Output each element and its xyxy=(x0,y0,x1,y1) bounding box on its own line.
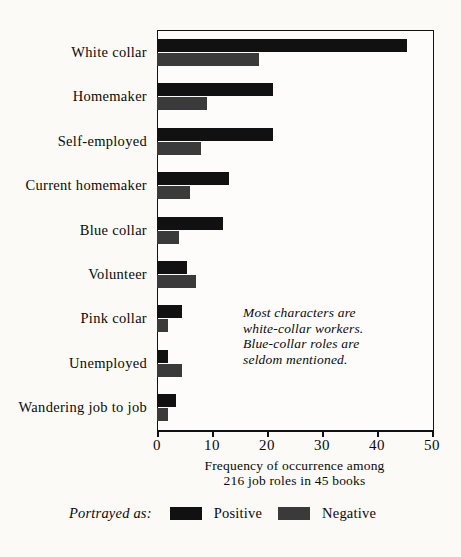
bar-negative xyxy=(157,319,168,332)
bar-group xyxy=(157,394,432,421)
bar-negative xyxy=(157,186,190,199)
bar-positive xyxy=(157,39,407,52)
x-tick-label: 0 xyxy=(153,437,161,454)
annotation-line: white-collar workers. xyxy=(243,321,403,337)
legend-items: PositiveNegative xyxy=(170,505,392,522)
x-axis-title-line-1: Frequency of occurrence among xyxy=(204,458,384,473)
bar-group xyxy=(157,261,432,288)
category-label: Unemployed xyxy=(69,355,147,371)
x-axis-title: Frequency of occurrence among 216 job ro… xyxy=(157,458,432,488)
bar-negative xyxy=(157,275,196,288)
x-tick-label: 40 xyxy=(369,437,385,454)
x-axis-title-line-2: 216 job roles in 45 books xyxy=(157,473,432,488)
bar-group xyxy=(157,172,432,199)
bar-positive xyxy=(157,261,187,274)
x-tick-label: 10 xyxy=(204,437,220,454)
x-tick xyxy=(157,430,159,437)
x-tick xyxy=(212,430,214,437)
x-axis-line xyxy=(157,430,432,431)
annotation-line: Most characters are xyxy=(243,305,403,321)
legend-label: Negative xyxy=(322,505,376,522)
annotation-line: seldom mentioned. xyxy=(243,352,403,368)
bar-positive xyxy=(157,305,182,318)
category-label: Current homemaker xyxy=(26,177,147,193)
x-tick-label: 20 xyxy=(259,437,275,454)
x-tick-label: 30 xyxy=(314,437,330,454)
bar-negative xyxy=(157,231,179,244)
chart-annotation: Most characters arewhite-collar workers.… xyxy=(243,305,403,367)
bar-group xyxy=(157,39,432,66)
legend-title: Portrayed as: xyxy=(69,505,152,522)
bar-group xyxy=(157,128,432,155)
bar-positive xyxy=(157,83,273,96)
bar-negative xyxy=(157,142,201,155)
bars-layer xyxy=(157,30,432,430)
category-label: Self-employed xyxy=(58,133,147,149)
annotation-line: Blue-collar roles are xyxy=(243,336,403,352)
x-tick-label: 50 xyxy=(424,437,440,454)
category-label: Volunteer xyxy=(88,266,147,282)
filled-square-gray-icon xyxy=(278,507,310,520)
bar-positive xyxy=(157,217,223,230)
bar-negative xyxy=(157,53,259,66)
filled-square-dark-icon xyxy=(170,507,202,520)
bar-negative xyxy=(157,97,207,110)
category-label: Wandering job to job xyxy=(19,399,147,415)
bar-positive xyxy=(157,350,168,363)
bar-group xyxy=(157,83,432,110)
category-label: White collar xyxy=(71,44,147,60)
bar-negative xyxy=(157,408,168,421)
legend-label: Positive xyxy=(214,505,262,522)
bar-negative xyxy=(157,364,182,377)
bar-positive xyxy=(157,394,176,407)
bar-positive xyxy=(157,128,273,141)
x-tick xyxy=(432,430,434,437)
x-tick xyxy=(377,430,379,437)
category-label: Pink collar xyxy=(80,310,147,326)
legend-item: Negative xyxy=(278,505,376,522)
x-tick xyxy=(322,430,324,437)
legend-item: Positive xyxy=(170,505,262,522)
x-tick xyxy=(267,430,269,437)
bar-group xyxy=(157,217,432,244)
category-label: Homemaker xyxy=(73,88,147,104)
bar-positive xyxy=(157,172,229,185)
chart-legend: Portrayed as: PositiveNegative xyxy=(0,505,461,522)
category-axis-labels: White collarHomemakerSelf-employedCurren… xyxy=(0,30,151,430)
category-label: Blue collar xyxy=(80,222,147,238)
chart-page: White collarHomemakerSelf-employedCurren… xyxy=(0,0,461,557)
